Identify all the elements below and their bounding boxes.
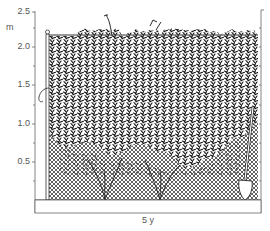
fence-post [46, 30, 50, 200]
ground [35, 200, 261, 213]
tick-label-2-0: 2.0 [6, 42, 30, 51]
tick-label-2-5: 2.5 [6, 7, 30, 16]
tick-label-1-5: 1.5 [6, 80, 30, 89]
right-height-axis [259, 10, 264, 213]
y-axis-unit: m [6, 22, 14, 32]
tick-label-0-5: 0.5 [6, 157, 30, 166]
age-caption: 5 y [128, 215, 168, 225]
hedge-growth-illustration: m 2.5 2.0 1.5 1.0 0.5 5 y [0, 0, 270, 231]
tick-label-1-0: 1.0 [6, 119, 30, 128]
left-height-axis [32, 11, 35, 213]
foliage-top [75, 15, 258, 36]
illustration-canvas [0, 0, 270, 231]
